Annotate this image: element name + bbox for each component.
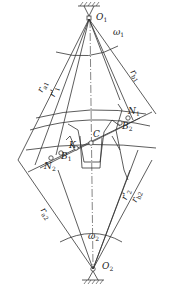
omega2-label: ω2 [88, 232, 99, 242]
point-b2-label: B2 [122, 122, 132, 132]
point-n2-label: N2 [44, 162, 56, 172]
point-b1-label: B1 [61, 152, 71, 162]
diagram-lines [0, 0, 171, 288]
gear-meshing-diagram: O1 O2 ω1 ω2 ra1 r'1 rb1 ra2 r'2 rb2 C K … [0, 0, 171, 288]
point-n1-label: N1 [128, 107, 140, 117]
point-c-label: C [93, 130, 100, 139]
omega1-label: ω1 [113, 28, 124, 38]
center-o2-label: O2 [102, 262, 113, 272]
center-o1-label: O1 [96, 13, 107, 23]
point-k-label: K [69, 141, 76, 150]
